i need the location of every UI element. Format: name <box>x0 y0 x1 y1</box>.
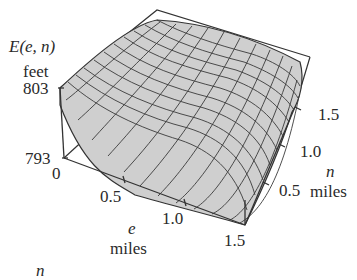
z-tick-803: 803 <box>23 80 49 97</box>
y-tick-1-5: 1.5 <box>318 106 339 123</box>
x-tick-1-5: 1.5 <box>224 232 245 249</box>
z-tick-793: 793 <box>25 150 51 167</box>
x-axis-var: e <box>128 220 136 237</box>
x-tick-1-0: 1.0 <box>162 210 183 227</box>
x-tick-0-5: 0.5 <box>100 188 121 205</box>
x-axis-units: miles <box>110 240 147 257</box>
z-axis-title: E(e, n) <box>9 38 55 55</box>
y-axis-var: n <box>326 163 335 180</box>
y-tick-0-5: 0.5 <box>279 182 300 199</box>
y-tick-1-0: 1.0 <box>300 143 321 160</box>
y-axis-units: miles <box>310 183 347 200</box>
x-tick-0: 0 <box>52 165 61 182</box>
surface <box>60 20 302 225</box>
stray-n-label: n <box>36 262 45 279</box>
z-axis-units: feet <box>23 63 48 80</box>
